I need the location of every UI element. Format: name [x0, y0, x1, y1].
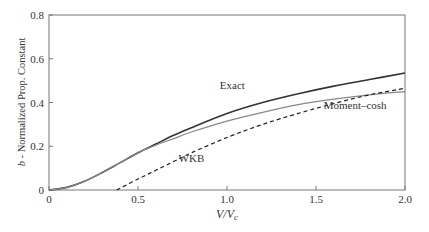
annotation-label: Moment–cosh — [324, 99, 387, 111]
annotation-label: Exact — [220, 79, 245, 91]
x-tick-label: 0.5 — [131, 193, 145, 205]
y-tick-label: 0.2 — [30, 140, 44, 152]
y-tick-label: 0.4 — [30, 97, 44, 109]
y-axis-label: b - Normalized Prop. Constant — [16, 38, 27, 167]
annotations: ExactMoment–coshWKB — [179, 79, 388, 163]
x-tick-label: 0 — [46, 193, 52, 205]
x-tick-label: 1.0 — [220, 193, 234, 205]
y-tick-label: 0.8 — [30, 9, 44, 21]
y-tick-label: 0.6 — [30, 53, 44, 65]
annotation-label: WKB — [179, 152, 205, 164]
x-axis-label: V/Vc — [216, 207, 238, 222]
chart: 00.51.01.52.000.20.40.60.8 ExactMoment–c… — [0, 0, 429, 232]
x-tick-label: 2.0 — [398, 193, 412, 205]
y-tick-label: 0 — [39, 184, 45, 196]
x-tick-label: 1.5 — [309, 193, 323, 205]
